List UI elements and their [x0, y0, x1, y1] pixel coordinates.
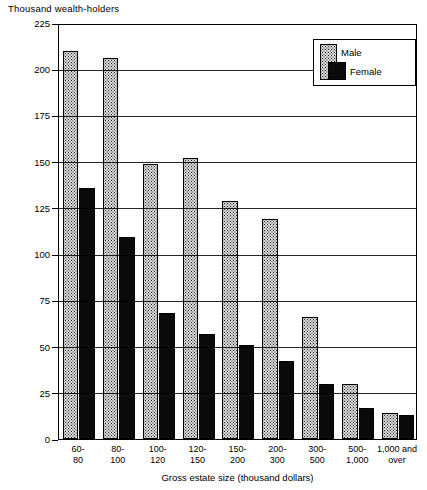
- y-tick-mark: [52, 70, 58, 71]
- bar-group: [378, 25, 418, 439]
- bar-group: [258, 25, 298, 439]
- legend-label-male: Male: [341, 48, 362, 58]
- bar-female-7: [359, 408, 375, 439]
- gridline: [58, 116, 417, 117]
- y-tick-label: 200: [10, 65, 50, 74]
- y-tick-mark: [52, 208, 58, 209]
- legend-swatch-female: [328, 62, 346, 80]
- legend-label-female: Female: [350, 67, 382, 77]
- y-tick-label: 0: [10, 435, 50, 444]
- plot-area: [58, 24, 417, 440]
- y-tick-mark: [52, 393, 58, 394]
- bar-male-4: [222, 201, 238, 440]
- bar-group: [219, 25, 259, 439]
- y-tick-label: 150: [10, 158, 50, 167]
- gridline: [58, 393, 417, 394]
- bar-male-3: [183, 158, 199, 439]
- chart-root: Thousand wealth-holders 0255075100125150…: [0, 0, 427, 490]
- y-tick-mark: [52, 162, 58, 163]
- y-tick-mark: [52, 440, 58, 441]
- bar-female-3: [199, 334, 215, 439]
- y-axis-title: Thousand wealth-holders: [8, 3, 119, 14]
- x-axis-title: Gross estate size (thousand dollars): [58, 472, 417, 483]
- y-tick-label: 125: [10, 204, 50, 213]
- y-tick-label: 25: [10, 389, 50, 398]
- bar-male-0: [63, 51, 79, 439]
- gridline: [58, 301, 417, 302]
- y-tick-mark: [52, 116, 58, 117]
- x-axis-labels: 60-8080-100100-120120-150150-200200-3003…: [58, 442, 417, 472]
- bar-female-2: [159, 313, 175, 439]
- bar-female-8: [399, 415, 415, 439]
- y-tick-label: 175: [10, 111, 50, 120]
- legend: Male Female: [313, 39, 416, 86]
- bar-male-7: [342, 384, 358, 439]
- bar-male-5: [262, 219, 278, 439]
- y-tick-label: 225: [10, 19, 50, 28]
- bar-female-6: [319, 384, 335, 439]
- bar-series-container: [59, 25, 416, 439]
- bar-female-0: [79, 188, 95, 439]
- bar-female-4: [239, 345, 255, 439]
- gridline: [58, 208, 417, 209]
- y-tick-mark: [52, 347, 58, 348]
- gridline: [58, 162, 417, 163]
- bar-female-1: [119, 237, 135, 439]
- y-tick-mark: [52, 301, 58, 302]
- gridline: [58, 255, 417, 256]
- x-tick-label: 1,000 andover: [369, 444, 425, 465]
- bar-group: [99, 25, 139, 439]
- bar-group: [298, 25, 338, 439]
- gridline: [58, 347, 417, 348]
- y-tick-mark: [52, 24, 58, 25]
- bar-male-8: [382, 413, 398, 439]
- y-tick-label: 100: [10, 250, 50, 259]
- bar-male-6: [302, 317, 318, 439]
- y-tick-mark: [52, 255, 58, 256]
- bar-group: [59, 25, 99, 439]
- y-tick-label: 75: [10, 296, 50, 305]
- bar-female-5: [279, 361, 295, 439]
- bar-group: [139, 25, 179, 439]
- y-tick-label: 50: [10, 343, 50, 352]
- bar-group: [179, 25, 219, 439]
- bar-group: [338, 25, 378, 439]
